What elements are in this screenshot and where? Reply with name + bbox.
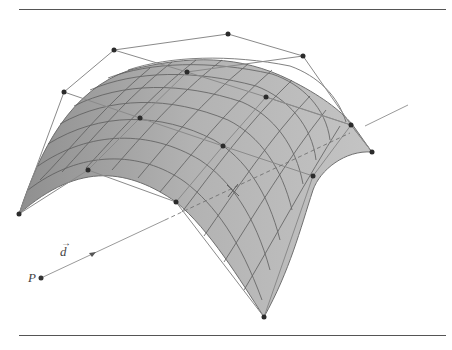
point-label-p: P — [28, 270, 36, 286]
ray-origin-point — [39, 276, 44, 281]
arrow-icon — [89, 252, 96, 257]
direction-label-d: → d — [60, 244, 67, 260]
surface-patch — [19, 60, 372, 317]
bezier-surface-figure — [0, 0, 452, 350]
